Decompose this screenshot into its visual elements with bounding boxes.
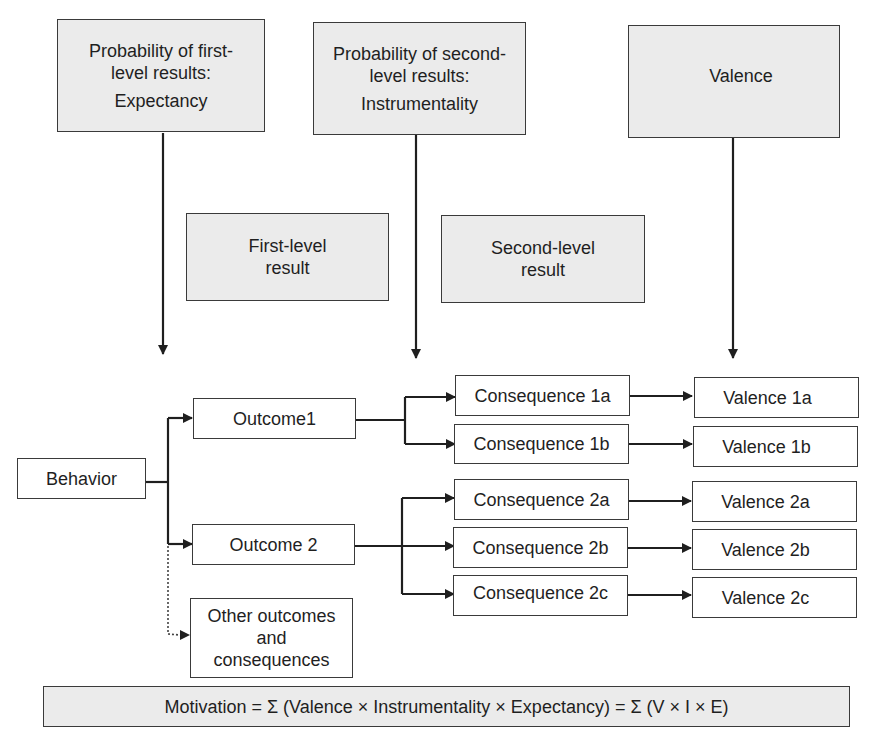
valence-2b-label: Valence 2b (721, 539, 810, 561)
instrumentality-line1: Probability of second- (333, 43, 506, 65)
first-level-line1: First-level (248, 235, 326, 257)
other-outcomes-line3: consequences (213, 649, 329, 671)
behavior-box: Behavior (17, 458, 146, 499)
consequence-1a-label: Consequence 1a (474, 385, 610, 407)
consequence-2a-label: Consequence 2a (473, 489, 609, 511)
other-outcomes-line1: Other outcomes (207, 605, 335, 627)
behavior-label: Behavior (46, 468, 117, 490)
valence-2a-box: Valence 2a (692, 481, 857, 522)
expectancy-label: Expectancy (114, 90, 207, 112)
outcome-1-label: Outcome1 (233, 408, 316, 430)
consequence-2a-box: Consequence 2a (454, 479, 629, 520)
valence-1b-label: Valence 1b (722, 436, 811, 458)
consequence-2c-label: Consequence 2c (473, 582, 608, 604)
expectancy-box: Probability of first- level results: Exp… (57, 19, 265, 132)
expectancy-line1: Probability of first- (89, 40, 233, 62)
consequence-1b-label: Consequence 1b (473, 433, 609, 455)
other-outcomes-line2: and (256, 627, 286, 649)
valence-label: Valence (709, 65, 773, 87)
valence-2a-label: Valence 2a (721, 491, 810, 513)
valence-2c-box: Valence 2c (692, 577, 857, 618)
consequence-2c-box: Consequence 2c (453, 575, 628, 616)
instrumentality-line2: level results: (369, 65, 469, 87)
valence-1a-label: Valence 1a (723, 387, 812, 409)
valence-box: Valence (628, 25, 840, 138)
instrumentality-box: Probability of second- level results: In… (313, 22, 526, 135)
valence-2c-label: Valence 2c (722, 587, 810, 609)
expectancy-line2: level results: (111, 62, 211, 84)
other-outcomes-box: Other outcomes and consequences (190, 598, 353, 678)
consequence-1b-box: Consequence 1b (454, 424, 629, 464)
first-level-line2: result (265, 257, 309, 279)
second-level-line2: result (521, 259, 565, 281)
consequence-2b-box: Consequence 2b (453, 527, 628, 568)
motivation-formula: Motivation = Σ (Valence × Instrumentalit… (164, 696, 728, 718)
outcome-2-box: Outcome 2 (192, 524, 355, 565)
outcome-2-label: Outcome 2 (229, 534, 317, 556)
motivation-formula-box: Motivation = Σ (Valence × Instrumentalit… (43, 686, 850, 727)
second-level-line1: Second-level (491, 237, 595, 259)
first-level-result-box: First-level result (186, 213, 389, 301)
instrumentality-label: Instrumentality (361, 93, 478, 115)
outcome-1-box: Outcome1 (193, 398, 356, 439)
valence-1a-box: Valence 1a (694, 377, 859, 418)
consequence-1a-box: Consequence 1a (455, 375, 630, 416)
valence-1b-box: Valence 1b (693, 426, 858, 467)
second-level-result-box: Second-level result (441, 215, 645, 303)
valence-2b-box: Valence 2b (692, 529, 857, 570)
consequence-2b-label: Consequence 2b (472, 537, 608, 559)
